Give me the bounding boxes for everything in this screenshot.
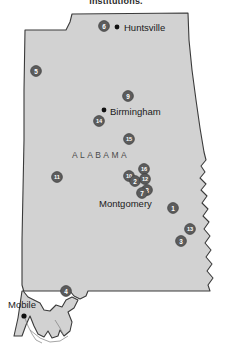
marker-6[interactable]: 6 <box>99 21 110 32</box>
map-graphic: Huntsville Birmingham Montgomery Mobile … <box>0 0 232 352</box>
marker-3[interactable]: 3 <box>176 236 187 247</box>
city-label-birmingham: Birmingham <box>110 106 161 117</box>
marker-9[interactable]: 9 <box>123 91 134 102</box>
city-label-mobile: Mobile <box>8 299 36 310</box>
city-dot-huntsville <box>115 25 120 30</box>
marker-11[interactable]: 11 <box>52 172 63 183</box>
alabama-state-outline <box>14 13 213 338</box>
marker-7-label: 7 <box>140 190 144 197</box>
marker-9-label: 9 <box>126 93 130 100</box>
marker-4-label: 4 <box>64 288 68 295</box>
marker-12-label: 12 <box>142 176 148 182</box>
city-dot-mobile <box>21 313 26 318</box>
marker-1-label: 1 <box>171 205 175 212</box>
city-label-huntsville: Huntsville <box>124 22 165 33</box>
marker-7[interactable]: 7 <box>137 188 148 199</box>
marker-16[interactable]: 16 <box>139 164 150 175</box>
state-name-label: ALABAMA <box>72 150 129 160</box>
marker-14[interactable]: 14 <box>94 116 105 127</box>
marker-15-label: 15 <box>126 136 132 142</box>
marker-5[interactable]: 5 <box>31 66 42 77</box>
marker-3-label: 3 <box>179 238 183 245</box>
marker-14-label: 14 <box>96 118 103 124</box>
marker-4[interactable]: 4 <box>61 286 72 297</box>
alabama-institutions-map: institutions. Huntsville Birmingham Mont… <box>0 0 232 352</box>
city-dot-birmingham <box>102 108 107 113</box>
marker-16-label: 16 <box>141 166 147 172</box>
marker-6-label: 6 <box>102 23 106 30</box>
marker-13-label: 13 <box>187 226 193 232</box>
marker-13[interactable]: 13 <box>185 224 196 235</box>
marker-5-label: 5 <box>34 68 38 75</box>
city-label-montgomery: Montgomery <box>99 198 152 209</box>
marker-12[interactable]: 12 <box>140 174 151 185</box>
marker-15[interactable]: 15 <box>124 134 135 145</box>
marker-11-label: 11 <box>54 174 60 180</box>
marker-1[interactable]: 1 <box>168 203 179 214</box>
marker-2-label: 2 <box>133 178 137 185</box>
marker-2[interactable]: 2 <box>130 176 141 187</box>
